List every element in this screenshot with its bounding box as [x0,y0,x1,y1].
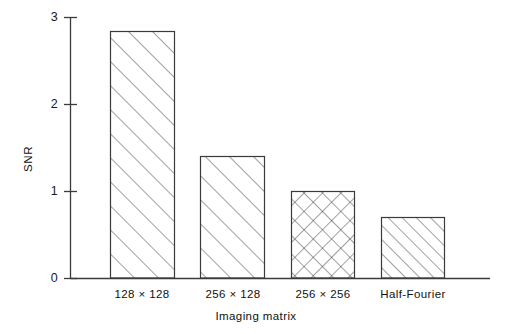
y-tick-label-2: 2 [28,97,58,111]
y-tick-label-0: 0 [28,271,58,285]
y-tick-label-3: 3 [28,10,58,24]
y-axis-title: SNR [22,146,34,172]
chart-plot-area [0,0,506,334]
x-tick-label-256x128: 256 × 128 [183,288,283,300]
bar-chart: 3 2 1 0 SNR 128 × 128 256 × 128 256 × 25… [0,0,506,334]
bar-256x256 [291,191,355,278]
x-axis-title: Imaging matrix [36,310,476,322]
y-tick-label-1: 1 [28,184,58,198]
bar-128x128 [110,31,175,278]
bar-256x128 [200,156,265,278]
bar-half-fourier [381,217,445,278]
x-tick-label-128x128: 128 × 128 [92,288,192,300]
x-tick-label-half-fourier: Half-Fourier [363,288,463,300]
x-tick-label-256x256: 256 × 256 [273,288,373,300]
